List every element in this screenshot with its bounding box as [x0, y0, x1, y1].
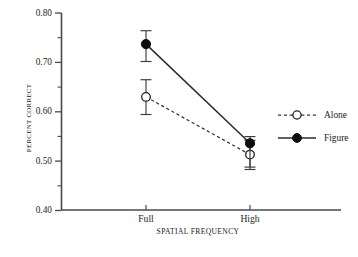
legend-swatch-alone-marker	[293, 111, 301, 119]
y-tick-label-070: 0.70	[36, 57, 53, 67]
legend-swatch-figure-marker	[293, 134, 302, 143]
data-point-alone-full	[142, 93, 151, 102]
line-chart-canvas: 0.80 0.70 0.60 0.50 0.40 PERCENT CORRECT…	[0, 0, 358, 257]
legend-label-figure: Figure	[324, 133, 348, 143]
y-tick-label-040: 0.40	[36, 205, 53, 215]
y-tick-label-050: 0.50	[36, 156, 53, 166]
x-axis-title: SPATIAL FREQUENCY	[157, 227, 240, 236]
x-tick-label-high: High	[240, 213, 259, 224]
chart-background	[0, 0, 358, 257]
y-axis-title: PERCENT CORRECT	[25, 83, 32, 152]
legend-label-alone: Alone	[324, 110, 347, 120]
chart-figure: 0.80 0.70 0.60 0.50 0.40 PERCENT CORRECT…	[0, 0, 358, 257]
x-tick-label-full: Full	[138, 213, 154, 224]
y-tick-label-080: 0.80	[36, 8, 53, 18]
y-tick-label-060: 0.60	[36, 106, 53, 116]
data-point-figure-high	[245, 139, 254, 148]
data-point-figure-full	[141, 40, 150, 49]
